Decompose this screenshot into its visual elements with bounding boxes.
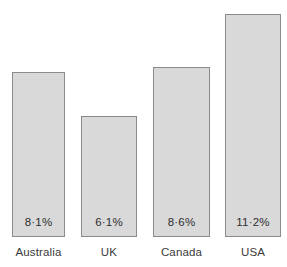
bar-value-usa: 11·2% xyxy=(226,217,280,229)
bar-australia[interactable]: 8·1% xyxy=(12,72,65,237)
bar-value-canada: 8·6% xyxy=(154,217,209,229)
bar-value-uk: 6·1% xyxy=(82,217,136,229)
plot-area: 8·1% Australia 6·1% UK 8·6% Canada 11·2%… xyxy=(0,0,287,267)
category-label-usa: USA xyxy=(211,247,287,259)
bar-chart: 8·1% Australia 6·1% UK 8·6% Canada 11·2%… xyxy=(0,0,287,267)
bar-usa[interactable]: 11·2% xyxy=(225,14,281,237)
bar-uk[interactable]: 6·1% xyxy=(81,116,137,237)
bar-canada[interactable]: 8·6% xyxy=(153,67,210,237)
bar-value-australia: 8·1% xyxy=(13,217,64,229)
